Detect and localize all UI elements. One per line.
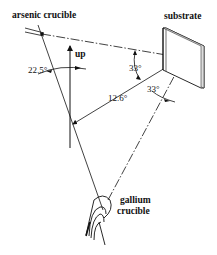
angle-33-upper-label: 33° [129,63,142,73]
angle-22-5-label: 22.5° [28,65,48,75]
gallium-label-line2: crucible [117,206,150,216]
up-label: up [75,49,86,59]
substrate-icon [163,28,204,88]
mbe-geometry-diagram: arsenic crucible substrate up 22.5° 33° … [0,0,217,255]
substrate-label: substrate [164,11,201,21]
gallium-crucible-icon [86,196,111,245]
angle-33-lower-label: 33° [147,84,160,94]
arsenic-crucible-label: arsenic crucible [12,10,76,20]
angle-12-6-label: 12.6° [108,93,128,103]
gallium-label-line1: gallium [120,195,151,205]
